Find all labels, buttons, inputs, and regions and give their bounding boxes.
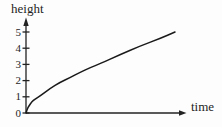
chart-canvas: 012345 (0, 0, 222, 127)
curve-path (26, 32, 175, 113)
y-tick-label: 3 (16, 58, 22, 70)
y-tick-label: 0 (16, 107, 22, 119)
x-axis-arrow-icon (179, 110, 187, 115)
y-axis-arrow-icon (23, 18, 28, 27)
y-tick-label: 4 (16, 42, 22, 54)
y-axis-title: height (11, 2, 44, 15)
y-tick-label: 1 (16, 90, 22, 102)
chart-figure: 012345 height time (0, 0, 222, 127)
y-tick-label: 5 (16, 26, 22, 38)
x-axis-title: time (191, 100, 214, 113)
y-tick-label: 2 (16, 74, 22, 86)
